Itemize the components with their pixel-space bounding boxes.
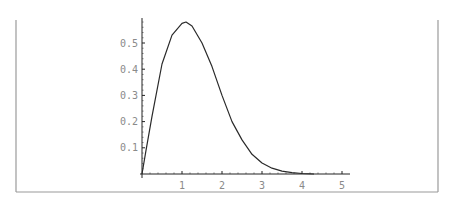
y-tick-label: 0.4 — [120, 64, 138, 75]
y-axis-tick-labels: 0.10.20.30.40.5 — [120, 38, 138, 154]
x-tick-label: 4 — [299, 180, 305, 191]
x-tick-label: 2 — [219, 180, 225, 191]
y-tick-label: 0.5 — [120, 38, 138, 49]
x-tick-label: 1 — [179, 180, 185, 191]
axes — [140, 18, 350, 178]
data-curve — [142, 22, 314, 174]
y-tick-label: 0.1 — [120, 142, 138, 153]
y-tick-label: 0.3 — [120, 90, 138, 101]
x-tick-label: 5 — [339, 180, 345, 191]
chart: 0.10.20.30.40.5 12345 — [0, 0, 456, 202]
x-tick-label: 3 — [259, 180, 265, 191]
y-tick-label: 0.2 — [120, 116, 138, 127]
x-axis-tick-labels: 12345 — [179, 180, 345, 191]
plot-frame — [16, 20, 438, 192]
